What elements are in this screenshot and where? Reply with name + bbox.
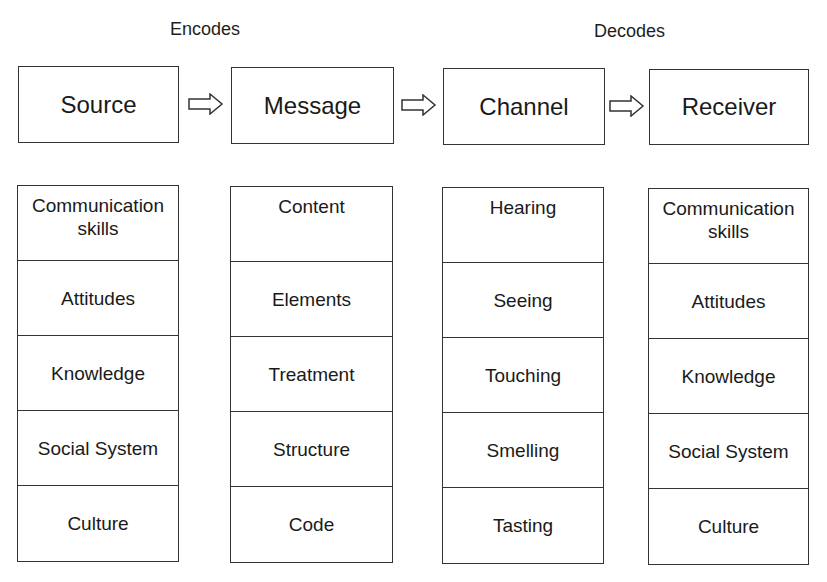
attribute-cell: Knowledge: [18, 336, 178, 411]
stage-channel: Channel: [443, 68, 605, 145]
channel-attributes: Hearing Seeing Touching Smelling Tasting: [442, 187, 604, 564]
decodes-label: Decodes: [594, 21, 665, 42]
stage-receiver: Receiver: [649, 69, 809, 145]
receiver-attributes: Communication skills Attitudes Knowledge…: [648, 188, 809, 565]
attribute-cell: Content: [231, 187, 392, 262]
attribute-cell: Culture: [18, 486, 178, 561]
attribute-cell: Social System: [649, 414, 808, 489]
attribute-cell: Treatment: [231, 337, 392, 412]
right-arrow-icon: [188, 93, 224, 115]
attribute-cell: Code: [231, 487, 392, 562]
attribute-cell: Attitudes: [649, 264, 808, 339]
attribute-cell: Communication skills: [649, 189, 808, 264]
encodes-label: Encodes: [170, 19, 240, 40]
attribute-cell: Culture: [649, 489, 808, 564]
stage-message: Message: [231, 67, 394, 144]
attribute-cell: Seeing: [443, 263, 603, 338]
stage-source: Source: [18, 66, 179, 143]
attribute-cell: Smelling: [443, 413, 603, 488]
attribute-cell: Hearing: [443, 188, 603, 263]
attribute-cell: Knowledge: [649, 339, 808, 414]
attribute-cell: Elements: [231, 262, 392, 337]
attribute-cell: Communication skills: [18, 186, 178, 261]
attribute-cell: Tasting: [443, 488, 603, 563]
message-attributes: Content Elements Treatment Structure Cod…: [230, 186, 393, 563]
attribute-cell: Social System: [18, 411, 178, 486]
source-attributes: Communication skills Attitudes Knowledge…: [17, 185, 179, 562]
attribute-cell: Touching: [443, 338, 603, 413]
attribute-cell: Attitudes: [18, 261, 178, 336]
right-arrow-icon: [401, 94, 437, 116]
attribute-cell: Structure: [231, 412, 392, 487]
right-arrow-icon: [609, 95, 645, 117]
